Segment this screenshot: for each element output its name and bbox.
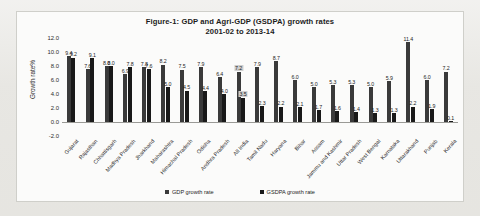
y-axis-ticks: 12.010.08.06.04.02.00.0-2.0: [37, 38, 59, 136]
x-axis-tick-label: Bihar: [293, 138, 306, 152]
bar-group: 5.01.7: [307, 38, 326, 136]
y-axis-tick-label: 6.0: [51, 77, 59, 83]
bar-gdp: [218, 77, 222, 122]
bar-gsdpa: [90, 58, 94, 122]
bar-value-label: 5.9: [386, 75, 393, 81]
bar-value-label: 0.1: [447, 115, 454, 121]
bar-group: 11.42.2: [401, 38, 420, 136]
bar-value-label: 5.0: [310, 81, 317, 87]
y-axis-tick-label: 12.0: [48, 35, 59, 41]
bar-group: 7.20.1: [439, 38, 458, 136]
y-axis-tick-label: -2.0: [49, 133, 59, 139]
legend-label: GDP growth rate: [172, 189, 214, 195]
bar-value-label: 1.9: [428, 103, 435, 109]
x-axis-category-labels: GujaratRajasthanChhattisgarhMadhya Prade…: [62, 138, 458, 190]
bar-gsdpa: [222, 94, 226, 122]
bar-group: 7.23.5: [232, 38, 251, 136]
bar-value-label: 7.6: [145, 63, 152, 69]
bar-gsdpa: [430, 109, 434, 122]
legend-item[interactable]: GDP growth rate: [165, 189, 214, 195]
y-axis-tick-label: 8.0: [51, 63, 59, 69]
bar-gdp: [350, 85, 354, 122]
bar-value-label: 2.2: [409, 100, 416, 106]
y-axis-tick-label: 4.0: [51, 91, 59, 97]
bar-group: 8.72.2: [269, 38, 288, 136]
bar-value-label: 7.8: [126, 61, 133, 67]
bar-value-label: 4.0: [221, 88, 228, 94]
bar-value-label: 2.3: [258, 100, 265, 106]
bar-gsdpa: [279, 107, 283, 122]
bar-group: 5.01.3: [364, 38, 383, 136]
bar-value-label: 6.0: [424, 74, 431, 80]
bar-gsdpa: [260, 106, 264, 122]
bar-gsdpa: [298, 107, 302, 122]
legend-item[interactable]: GSDPA growth rate: [260, 189, 315, 195]
bar-group: 6.02.1: [288, 38, 307, 136]
bar-gsdpa: [203, 91, 207, 122]
bar-value-label: 7.9: [254, 61, 261, 67]
bar-value-label: 9.2: [70, 51, 77, 57]
bar-group: 9.49.2: [62, 38, 81, 136]
bar-gdp: [274, 61, 278, 122]
bar-value-label: 7.5: [178, 63, 185, 69]
x-axis-tick-label: Assam: [309, 138, 325, 155]
x-axis-tick-label: Odisha: [196, 138, 212, 155]
bar-value-label: 2.1: [296, 101, 303, 107]
bar-value-label: 1.7: [315, 104, 322, 110]
x-axis-tick-label: Punjab: [422, 138, 438, 155]
bar-value-label: 2.2: [277, 100, 284, 106]
bar-value-label: 9.1: [89, 52, 96, 58]
legend-swatch-icon: [260, 190, 264, 194]
y-axis-tick-label: 10.0: [48, 49, 59, 55]
bar-gsdpa: [411, 107, 415, 122]
bar-gdp: [142, 67, 146, 122]
bar-value-label: 4.4: [202, 85, 209, 91]
bar-gdp: [180, 70, 184, 123]
bar-value-label: 1.3: [390, 107, 397, 113]
bar-value-label: 5.3: [348, 79, 355, 85]
bar-value-label: 1.4: [353, 106, 360, 112]
bar-gsdpa: [166, 87, 170, 122]
bar-group: 6.01.9: [420, 38, 439, 136]
bar-gsdpa: [71, 58, 75, 122]
bar-gdp: [123, 74, 127, 122]
bar-value-label: 8.7: [273, 55, 280, 61]
chart-figure-card: Figure-1: GDP and Agri-GDP (GSDPA) growt…: [16, 11, 464, 202]
bar-value-label: 5.3: [329, 79, 336, 85]
bar-value-label: 6.4: [216, 71, 223, 77]
bar-value-label: 3.5: [239, 91, 248, 97]
bar-gdp: [67, 56, 71, 122]
bar-value-label: 7.9: [197, 61, 204, 67]
bar-value-label: 1.3: [372, 107, 379, 113]
x-axis-tick-label: Kerala: [442, 138, 457, 154]
bar-group: 8.08.0: [100, 38, 119, 136]
chart-legend: GDP growth rateGSDPA growth rate: [17, 189, 463, 195]
bar-group: 7.94.4: [194, 38, 213, 136]
bar-group: 5.31.4: [345, 38, 364, 136]
bar-gdp: [105, 66, 109, 122]
bar-gdp: [331, 85, 335, 122]
bar-gdp: [199, 67, 203, 122]
bar-gsdpa: [128, 67, 132, 122]
bar-group: 5.31.6: [326, 38, 345, 136]
x-axis-tick-label: All India: [232, 138, 250, 157]
bar-value-label: 7.2: [442, 65, 449, 71]
chart-title-block: Figure-1: GDP and Agri-GDP (GSDPA) growt…: [17, 17, 463, 36]
bar-gsdpa: [109, 66, 113, 122]
legend-label: GSDPA growth rate: [267, 189, 315, 195]
bar-gsdpa: [373, 113, 377, 122]
bar-value-label: 6.0: [292, 74, 299, 80]
chart-title: Figure-1: GDP and Agri-GDP (GSDPA) growt…: [17, 17, 463, 27]
bar-gsdpa: [335, 111, 339, 122]
bar-gdp: [255, 67, 259, 122]
bar-gsdpa: [392, 113, 396, 122]
bar-group: 7.69.1: [81, 38, 100, 136]
y-axis-tick-label: 0.0: [51, 119, 59, 125]
bar-group: 6.44.0: [213, 38, 232, 136]
chart-subtitle: 2001-02 to 2013-14: [17, 27, 463, 37]
y-axis-tick-label: 2.0: [51, 105, 59, 111]
bar-value-label: 8.2: [160, 58, 167, 64]
bar-value-label: 4.5: [183, 84, 190, 90]
plot-area-wrapper: Growth rate% 12.010.08.06.04.02.00.0-2.0…: [17, 38, 464, 136]
x-axis-tick-label: Haryana: [269, 138, 287, 157]
